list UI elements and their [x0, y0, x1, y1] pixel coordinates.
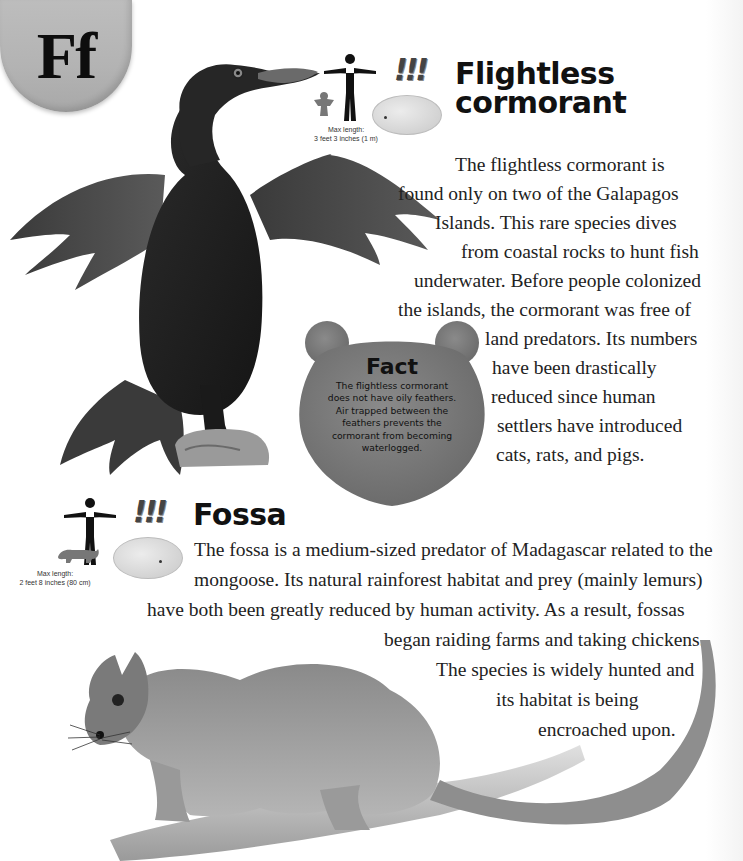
body-line: land predators. Its numbers	[485, 328, 697, 350]
fact-line: does not have oily feathers.	[296, 392, 488, 404]
body-line: found only on two of the Galapagos	[398, 183, 679, 205]
body-line: cats, rats, and pigs.	[496, 444, 644, 466]
fossa-title: Fossa	[193, 501, 286, 530]
fossa-illustration	[60, 640, 740, 861]
fact-line: feathers prevents the	[296, 417, 488, 429]
range-location-dot	[384, 116, 387, 119]
danger-exclamation-icon: !!!	[133, 494, 165, 529]
world-map-icon	[113, 537, 183, 579]
body-line: The flightless cormorant is	[455, 154, 665, 176]
title-line: cormorant	[455, 89, 626, 118]
encyclopedia-page: Ff	[0, 0, 743, 861]
fossa-size-silhouette-icon	[56, 543, 102, 565]
cormorant-title: Flightless cormorant	[455, 60, 626, 117]
fact-line: The flightless cormorant	[296, 380, 488, 392]
danger-exclamation-icon: !!!	[394, 52, 426, 87]
body-line: The fossa is a medium-sized predator of …	[194, 539, 713, 561]
fact-line: waterlogged.	[296, 442, 488, 454]
body-line: settlers have introduced	[497, 415, 682, 437]
fact-line: cormorant from becoming	[296, 430, 488, 442]
fossa-size-caption: Max length: 2 feet 8 inches (80 cm)	[0, 569, 110, 587]
body-line: have been drastically	[492, 357, 657, 379]
caption-label: Max length:	[0, 569, 110, 578]
body-line: reduced since human	[491, 386, 656, 408]
fact-text: The flightless cormorant does not have o…	[296, 380, 488, 455]
cormorant-size-silhouette-icon	[310, 90, 338, 120]
fact-box: Fact The flightless cormorant does not h…	[292, 318, 492, 508]
body-line: have both been greatly reduced by human …	[147, 599, 685, 621]
caption-label: Max length:	[306, 125, 386, 134]
body-line: Islands. This rare species dives	[435, 212, 677, 234]
fact-title: Fact	[292, 354, 492, 379]
fact-line: Air trapped between the	[296, 405, 488, 417]
caption-value: 2 feet 8 inches (80 cm)	[0, 578, 110, 587]
body-line: underwater. Before people colonized	[414, 270, 701, 292]
caption-value: 3 feet 3 inches (1 m)	[306, 134, 386, 143]
body-line: from coastal rocks to hunt fish	[461, 241, 699, 263]
body-line: mongoose. Its natural rainforest habitat…	[194, 569, 702, 591]
range-location-dot	[159, 560, 162, 563]
cormorant-size-caption: Max length: 3 feet 3 inches (1 m)	[306, 125, 386, 143]
